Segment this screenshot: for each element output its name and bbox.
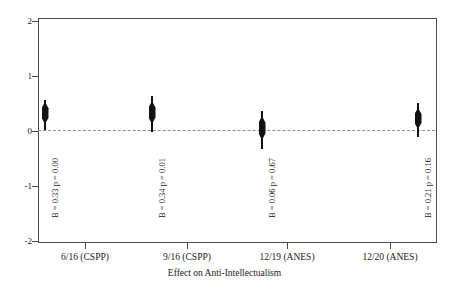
x-tick-mark-2	[187, 243, 188, 249]
x-tick-mark-1	[85, 243, 86, 249]
x-tick-label-12-20-anes: 12/20 (ANES)	[362, 252, 417, 263]
zero-reference-line	[38, 130, 435, 131]
x-tick-label-12-19-anes: 12/19 (ANES)	[259, 252, 314, 263]
x-tick-label-9-16-cspp: 9/16 (CSPP)	[163, 252, 211, 263]
y-tick-label-0: 0	[28, 127, 33, 136]
y-tick-label-neg1: -1	[25, 182, 33, 191]
estimate-annotation-9-16-cspp: B = 0.34 p = 0.01	[158, 158, 167, 218]
y-tick-label-1: 1	[28, 72, 33, 81]
y-tick-label-2: 2	[28, 17, 33, 26]
x-tick-mark-3	[287, 243, 288, 249]
point-estimate-spindle	[149, 101, 156, 124]
x-tick-mark-4	[390, 243, 391, 249]
x-axis-title: Effect on Anti-Intellectualism	[0, 268, 449, 279]
point-estimate-spindle	[42, 102, 49, 124]
estimate-annotation-12-19-anes: B = 0.06 p = 0.67	[268, 158, 277, 218]
point-estimate-spindle	[415, 108, 422, 129]
x-tick-label-6-16-cspp: 6/16 (CSPP)	[61, 252, 109, 263]
estimate-annotation-6-16-cspp: B = 0.33 p = 0.00	[51, 158, 60, 218]
coefficient-plot-figure: 2 1 0 -1 -2 B = 0.33 p = 0.00 B = 0.34 p…	[0, 0, 449, 291]
y-tick-label-neg2: -2	[25, 237, 33, 246]
estimate-annotation-12-20-anes: B = 0.21 p = 0.16	[424, 158, 433, 218]
point-estimate-spindle	[259, 116, 266, 140]
plot-inner-layer: B = 0.33 p = 0.00 B = 0.34 p = 0.01 B = …	[38, 18, 437, 243]
